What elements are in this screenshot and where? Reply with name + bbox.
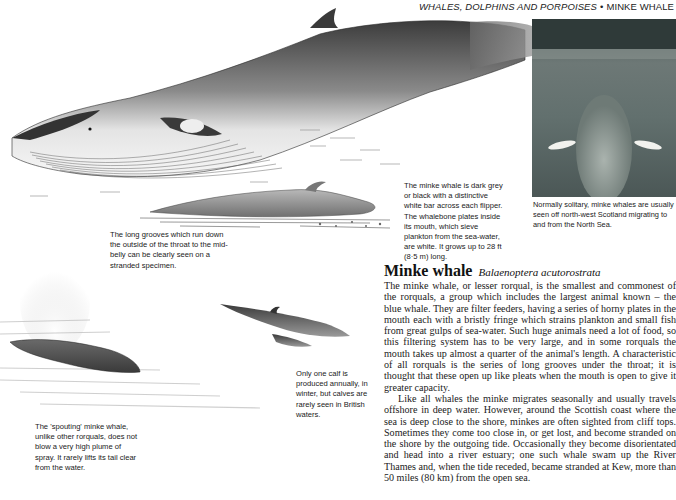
species-latin-name: Balaenoptera acutorostrata [478, 266, 600, 278]
caption-photo: Normally solitary, minke whales are usua… [533, 200, 676, 231]
species-common-name: Minke whale [384, 262, 472, 279]
article-paragraph: The minke whale, or lesser rorqual, is t… [384, 280, 676, 393]
mother-and-calf-illustration [210, 296, 360, 356]
article-body: The minke whale, or lesser rorqual, is t… [384, 280, 676, 483]
caption-coloration: The minke whale is dark grey or black wi… [404, 181, 506, 263]
stranded-whale-illustration [140, 176, 400, 232]
article-title: Minke whaleBalaenoptera acutorostrata [384, 262, 601, 280]
caption-spouting: The 'spouting' minke whale, unlike other… [35, 422, 143, 473]
caption-stranded: The long grooves which run down the outs… [110, 230, 232, 271]
underwater-whale-photo [532, 19, 676, 197]
photo-whale-shape-icon [532, 19, 676, 197]
caption-calf: Only one calf is produced annually, in w… [296, 369, 378, 420]
article-paragraph: Like all whales the minke migrates seaso… [384, 393, 676, 483]
